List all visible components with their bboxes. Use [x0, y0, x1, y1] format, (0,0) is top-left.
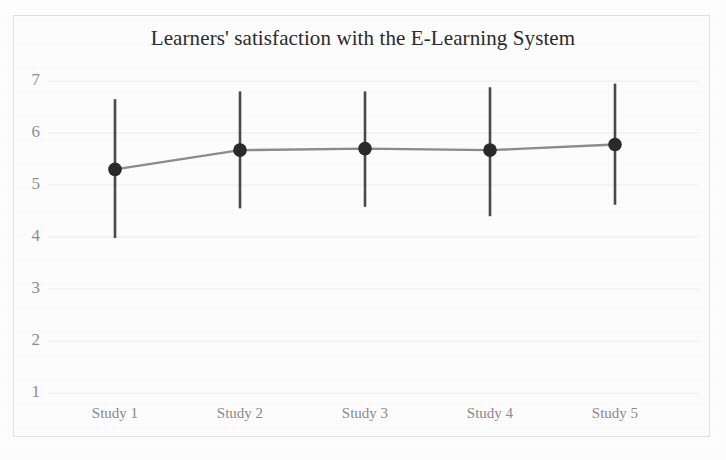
data-point-marker [483, 143, 497, 157]
y-tick-label: 6 [14, 122, 40, 142]
x-tick-label: Study 1 [60, 405, 170, 422]
x-tick-label: Study 5 [560, 405, 670, 422]
y-tick-label: 7 [14, 70, 40, 90]
gridlines [48, 81, 698, 393]
x-tick-label: Study 2 [185, 405, 295, 422]
y-tick-label: 1 [14, 382, 40, 402]
y-tick-label: 3 [14, 278, 40, 298]
y-tick-label: 5 [14, 174, 40, 194]
plot-area [0, 0, 726, 460]
chart-figure: Learners' satisfaction with the E-Learni… [0, 0, 726, 460]
x-tick-label: Study 4 [435, 405, 545, 422]
data-point-marker [108, 163, 122, 177]
y-tick-label: 2 [14, 330, 40, 350]
data-point-marker [233, 143, 247, 157]
error-bars-group [115, 84, 615, 238]
x-tick-label: Study 3 [310, 405, 420, 422]
y-tick-label: 4 [14, 226, 40, 246]
data-point-marker [608, 138, 622, 152]
data-point-marker [358, 142, 372, 156]
